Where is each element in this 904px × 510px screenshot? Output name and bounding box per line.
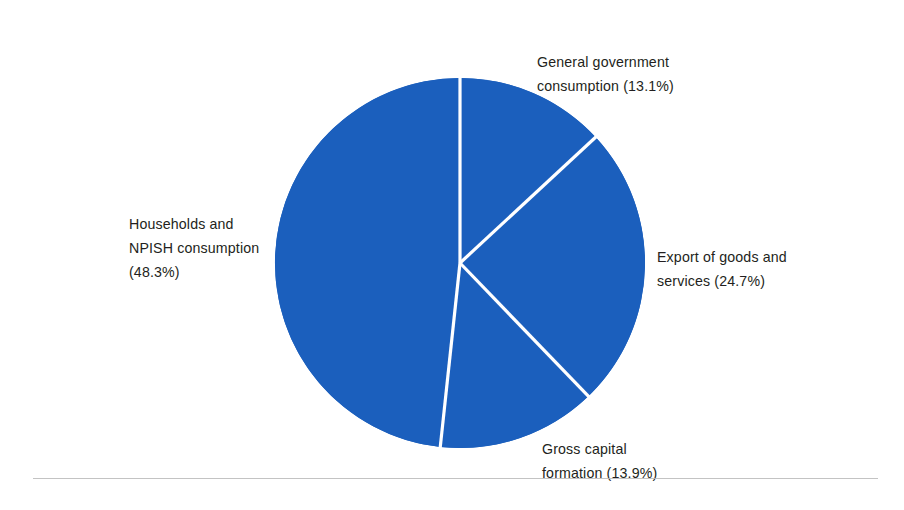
slice-label-line: formation (13.9%) [542, 461, 657, 485]
slice-label-households-npish: Households and NPISH consumption (48.3%) [129, 212, 259, 284]
slice-label-line: Gross capital [542, 437, 657, 461]
slice-label-line: General government [537, 50, 674, 74]
pie-slice[interactable] [275, 78, 460, 447]
footer-rule [33, 478, 878, 479]
slice-label-line: NPISH consumption [129, 236, 259, 260]
slice-label-general-government: General government consumption (13.1%) [537, 50, 674, 98]
slice-label-line: consumption (13.1%) [537, 74, 674, 98]
pie-slices-group [275, 77, 645, 448]
slice-label-line: services (24.7%) [657, 269, 787, 293]
slice-label-line: Export of goods and [657, 245, 787, 269]
slice-label-line: (48.3%) [129, 260, 259, 284]
pie-chart-figure: General government consumption (13.1%) E… [0, 0, 904, 510]
slice-label-line: Households and [129, 212, 259, 236]
slice-label-export-goods-services: Export of goods and services (24.7%) [657, 245, 787, 293]
